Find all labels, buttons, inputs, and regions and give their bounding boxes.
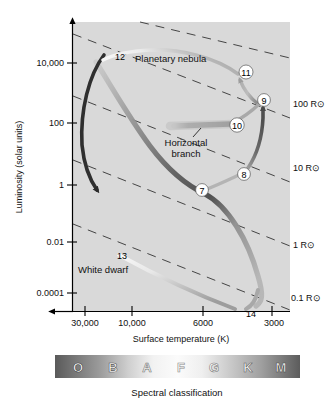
radius-label-1-rsun: 1 R⊙ [293, 240, 315, 250]
point-label-8: 8 [241, 170, 246, 180]
y-axis-title: Luminosity (solar units) [14, 121, 24, 214]
spectral-letter-K: K [243, 360, 253, 375]
spectral-letter-O: O [73, 360, 83, 375]
y-tick-label-10000: 10,000 [36, 58, 64, 68]
y-tick-label-0.01: 0.01 [46, 237, 64, 247]
spectral-letter-F: F [177, 360, 185, 375]
radius-label-0.1-rsun: 0.1 R⊙ [291, 293, 321, 303]
x-tick-label-6000: 6000 [193, 318, 213, 328]
point-marker-14: 14 [246, 309, 256, 319]
hr-diagram-figure: 10,000 100 1 0.01 0.0001 30,000 10,000 6… [0, 0, 329, 404]
point-marker-9: 9 [258, 94, 271, 107]
x-tick-label-30000: 30,000 [71, 318, 99, 328]
annotation-planetary-nebula: Planetary nebula [135, 53, 207, 64]
point-marker-11: 11 [239, 65, 253, 79]
point-label-7: 7 [199, 186, 204, 196]
x-tick-label-3000: 3000 [264, 318, 284, 328]
point-label-13: 13 [117, 251, 127, 261]
x-tick-label-10000: 10,000 [118, 318, 146, 328]
spectral-letter-G: G [209, 360, 219, 375]
annotation-horizontal-branch-line1: Horizontal [165, 137, 208, 148]
point-label-9: 9 [261, 96, 266, 106]
annotation-horizontal-branch-line2: branch [171, 148, 200, 159]
horizontal-branch-band-soft [170, 124, 232, 126]
radius-label-10-rsun: 10 R⊙ [293, 163, 320, 173]
spectral-letter-M: M [276, 360, 287, 375]
spectral-letter-B: B [108, 360, 117, 375]
point-marker-8: 8 [238, 168, 251, 181]
x-axis-title: Surface temperature (K) [133, 334, 230, 344]
hr-diagram-svg: 10,000 100 1 0.01 0.0001 30,000 10,000 6… [0, 0, 329, 404]
point-marker-10: 10 [230, 118, 244, 132]
point-marker-7: 7 [196, 184, 209, 197]
point-label-10: 10 [232, 121, 242, 131]
radius-label-100-rsun: 100 R⊙ [293, 99, 325, 109]
point-marker-13: 13 [117, 251, 127, 261]
point-label-12: 12 [115, 52, 125, 62]
annotation-white-dwarf: White dwarf [78, 264, 129, 275]
point-marker-12: 12 [115, 52, 125, 62]
y-tick-label-1: 1 [59, 180, 64, 190]
spectral-classification-caption: Spectral classification [131, 387, 222, 398]
point-label-14: 14 [246, 309, 256, 319]
y-tick-label-100: 100 [49, 118, 64, 128]
spectral-letter-A: A [142, 360, 152, 375]
point-label-11: 11 [241, 68, 250, 78]
y-tick-label-0.0001: 0.0001 [36, 288, 64, 298]
